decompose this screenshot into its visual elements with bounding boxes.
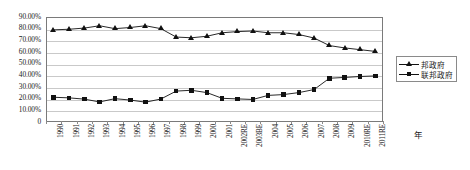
data-point-marker xyxy=(281,92,286,97)
data-point-marker xyxy=(357,46,363,51)
data-point-marker xyxy=(67,96,72,101)
x-axis-tickmark xyxy=(199,121,200,124)
x-axis-tickmark xyxy=(383,121,384,124)
x-axis-tickmark xyxy=(184,121,185,124)
x-axis-tickmark xyxy=(368,121,369,124)
y-axis-tick-label: 70.00% xyxy=(19,36,41,44)
y-axis-tick-label: 40.00% xyxy=(19,71,41,79)
x-axis-tickmark xyxy=(107,121,108,124)
data-point-marker xyxy=(251,97,256,102)
x-axis-tick-label: 2010RE xyxy=(364,124,372,147)
series-line-1 xyxy=(54,26,376,52)
x-axis-tickmark xyxy=(123,121,124,124)
chart-legend: 邦政府联邦政府 xyxy=(396,56,457,82)
x-axis-tick-label: 1995 xyxy=(134,124,142,138)
x-axis-tickmark xyxy=(169,121,170,124)
x-axis-tick-label: 1996 xyxy=(149,124,157,138)
data-point-marker xyxy=(143,100,148,105)
data-point-marker xyxy=(250,28,256,33)
y-axis-tick-label: 0 xyxy=(37,118,41,126)
series-lines xyxy=(46,17,383,122)
x-axis-tick-label: 1991 xyxy=(73,124,81,138)
data-point-marker xyxy=(188,35,194,40)
data-point-marker xyxy=(81,25,87,30)
x-axis-tickmark xyxy=(77,121,78,124)
data-point-marker xyxy=(311,35,317,40)
triangle-marker-icon xyxy=(399,59,419,69)
data-point-marker xyxy=(158,25,164,30)
legend-item-2[interactable]: 联邦政府 xyxy=(399,69,453,79)
data-point-marker xyxy=(127,24,133,29)
data-point-marker xyxy=(235,97,240,102)
x-axis-tick-label: 1992 xyxy=(88,124,96,138)
chart-container: 90.00%80.00%70.00%60.00%50.00%40.00%30.0… xyxy=(0,0,470,170)
x-axis-tickmark xyxy=(245,121,246,124)
series-layer xyxy=(46,17,383,122)
data-point-marker xyxy=(204,33,210,38)
data-point-marker xyxy=(372,48,378,53)
x-axis-tickmark xyxy=(337,121,338,124)
legend-item-1[interactable]: 邦政府 xyxy=(399,59,453,69)
data-point-marker xyxy=(373,74,378,79)
y-axis-tick-label: 10.00% xyxy=(19,106,41,114)
data-point-marker xyxy=(266,93,271,98)
x-axis-tick-label: 1998 xyxy=(180,124,188,138)
x-axis-tick-label: 1993 xyxy=(103,124,111,138)
x-axis-tickmark xyxy=(322,121,323,124)
x-axis-tickmark xyxy=(46,121,47,124)
y-axis-tick-label: 80.00% xyxy=(19,24,41,32)
data-point-marker xyxy=(326,42,332,47)
x-axis-tick-label: 2009 xyxy=(348,124,356,138)
data-point-marker xyxy=(159,97,164,102)
x-axis-tickmark xyxy=(260,121,261,124)
data-point-marker xyxy=(174,89,179,94)
x-axis-tickmark xyxy=(276,121,277,124)
data-point-marker xyxy=(342,75,347,80)
data-point-marker xyxy=(173,34,179,39)
data-point-marker xyxy=(142,23,148,28)
x-axis-tickmark xyxy=(215,121,216,124)
data-point-marker xyxy=(189,88,194,93)
y-axis-tick-label: 20.00% xyxy=(19,94,41,102)
x-axis-tick-label: 2006 xyxy=(302,124,310,138)
data-point-marker xyxy=(297,90,302,95)
x-axis-title: 年 xyxy=(414,128,423,140)
y-axis-tick-label: 90.00% xyxy=(19,13,41,21)
data-point-marker xyxy=(96,23,102,28)
data-point-marker xyxy=(97,100,102,105)
x-axis-tick-label: 2003BE xyxy=(256,124,264,147)
data-point-marker xyxy=(51,95,56,100)
data-point-marker xyxy=(280,30,286,35)
data-point-marker xyxy=(327,76,332,81)
x-axis-tick-label: 2004 xyxy=(272,124,280,138)
x-axis-tickmark xyxy=(92,121,93,124)
data-point-marker xyxy=(219,30,225,35)
data-point-marker xyxy=(265,30,271,35)
data-point-marker xyxy=(112,25,118,30)
x-axis-tick-label: 1994 xyxy=(119,124,127,138)
y-axis-tick-label: 30.00% xyxy=(19,83,41,91)
x-axis-tick-label: 2008 xyxy=(333,124,341,138)
data-point-marker xyxy=(50,27,56,32)
x-axis-tickmark xyxy=(306,121,307,124)
data-point-marker xyxy=(342,45,348,50)
x-axis-tickmark xyxy=(230,121,231,124)
data-point-marker xyxy=(358,74,363,79)
data-point-marker xyxy=(66,26,72,31)
x-axis-tick-label: 1997 xyxy=(164,124,172,138)
data-point-marker xyxy=(205,90,210,95)
x-axis-tick-label: 1990 xyxy=(57,124,65,138)
x-axis-tick-label: 2011RE xyxy=(379,124,387,147)
data-point-marker xyxy=(128,98,133,103)
data-point-marker xyxy=(312,87,317,92)
data-point-marker xyxy=(113,96,118,101)
x-axis-tickmark xyxy=(61,121,62,124)
data-point-marker xyxy=(296,31,302,36)
legend-item-label: 联邦政府 xyxy=(419,69,453,80)
x-axis-tick-label: 2000 xyxy=(210,124,218,138)
data-point-marker xyxy=(220,96,225,101)
x-axis-tick-label: 2005 xyxy=(287,124,295,138)
square-marker-icon xyxy=(399,69,419,79)
x-axis-tickmark xyxy=(138,121,139,124)
x-axis-tickmark xyxy=(153,121,154,124)
